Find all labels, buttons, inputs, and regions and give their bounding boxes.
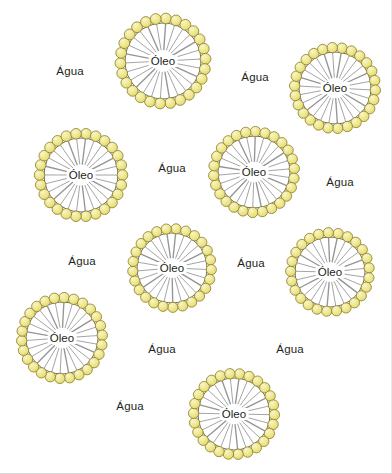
- surfactant-head: [289, 173, 299, 183]
- surfactant-head: [362, 253, 372, 263]
- surfactant-head: [318, 44, 328, 54]
- surfactant-head: [250, 126, 260, 136]
- surfactant-tail: [166, 25, 174, 50]
- surfactant-tail: [257, 138, 264, 162]
- surfactant-head: [290, 90, 300, 100]
- surfactant-head: [364, 263, 374, 273]
- surfactant-tail: [329, 99, 333, 123]
- water-label: Água: [237, 257, 264, 269]
- surfactant-head: [155, 98, 166, 109]
- surfactant-tail: [159, 236, 168, 258]
- surfactant-head: [55, 373, 65, 383]
- water-label: Água: [241, 71, 268, 83]
- surfactant-head: [290, 285, 300, 295]
- surfactant-head: [18, 345, 28, 355]
- surfactant-head: [35, 180, 46, 191]
- surfactant-head: [17, 326, 27, 336]
- surfactant-head: [269, 410, 279, 420]
- surfactant-head: [130, 276, 140, 286]
- surfactant-head: [215, 371, 225, 381]
- surfactant-head: [40, 296, 50, 306]
- surfactant-head: [327, 42, 337, 52]
- surfactant-tail: [238, 381, 247, 404]
- surfactant-tail: [327, 282, 329, 306]
- oil-label: Óleo: [240, 166, 269, 178]
- micelle-diagram: ÓleoÓleoÓleoÓleoÓleoÓleoÓleoÓleoÁguaÁgua…: [0, 0, 392, 474]
- surfactant-tail: [339, 56, 349, 79]
- surfactant-head: [128, 256, 138, 266]
- surfactant-head: [206, 265, 216, 275]
- surfactant-head: [187, 297, 197, 307]
- surfactant-tail: [172, 279, 173, 303]
- surfactant-head: [286, 266, 296, 276]
- surfactant-tail: [336, 99, 338, 124]
- surfactant-head: [370, 75, 380, 85]
- surfactant-tail: [173, 234, 176, 258]
- surfactant-head: [199, 64, 210, 75]
- surfactant-tail: [85, 141, 94, 165]
- surfactant-tail: [229, 425, 232, 449]
- surfactant-tail: [77, 139, 80, 164]
- surfactant-head: [116, 48, 127, 59]
- surfactant-head: [140, 17, 151, 28]
- surfactant-head: [337, 43, 347, 53]
- oil-label: Óleo: [321, 82, 350, 94]
- surfactant-head: [209, 170, 219, 180]
- surfactant-tail: [82, 139, 85, 164]
- surfactant-head: [95, 320, 105, 330]
- surfactant-head: [287, 256, 297, 266]
- surfactant-head: [205, 255, 215, 265]
- surfactant-head: [64, 373, 74, 383]
- surfactant-tail: [235, 425, 238, 450]
- surfactant-head: [333, 123, 343, 133]
- surfactant-head: [209, 161, 219, 171]
- surfactant-tail: [244, 182, 251, 206]
- surfactant-tail: [321, 98, 331, 121]
- surfactant-head: [168, 302, 178, 312]
- surfactant-tail: [165, 72, 169, 98]
- surfactant-head: [231, 130, 241, 140]
- surfactant-tail: [346, 89, 371, 90]
- water-label: Água: [68, 255, 95, 267]
- surfactant-head: [293, 100, 303, 110]
- micelle-group: [16, 13, 380, 459]
- oil-label: Óleo: [158, 262, 187, 274]
- surfactant-head: [117, 170, 128, 181]
- surfactant-head: [74, 370, 84, 380]
- surfactant-head: [333, 228, 343, 238]
- surfactant-head: [200, 53, 211, 64]
- water-label: Água: [116, 400, 143, 412]
- surfactant-head: [198, 43, 209, 54]
- surfactant-head: [81, 211, 92, 222]
- surfactant-head: [322, 306, 332, 316]
- surfactant-tail: [238, 424, 246, 447]
- surfactant-tail: [64, 349, 69, 373]
- surfactant-head: [268, 400, 278, 410]
- surfactant-tail: [65, 304, 72, 328]
- surfactant-head: [71, 211, 82, 222]
- surfactant-tail: [85, 185, 94, 209]
- surfactant-tail: [254, 137, 255, 162]
- oil-label: Óleo: [316, 266, 345, 278]
- surfactant-head: [289, 81, 299, 91]
- surfactant-head: [128, 266, 138, 276]
- surfactant-tail: [312, 242, 324, 263]
- surfactant-head: [241, 127, 251, 137]
- water-label: Água: [326, 176, 353, 188]
- surfactant-head: [287, 276, 297, 286]
- surfactant-tail: [222, 381, 230, 404]
- surfactant-head: [115, 58, 126, 69]
- surfactant-head: [165, 98, 176, 109]
- surfactant-head: [211, 180, 221, 190]
- surfactant-head: [177, 301, 187, 311]
- surfactant-tail: [148, 27, 158, 51]
- surfactant-head: [97, 340, 107, 350]
- surfactant-head: [370, 85, 380, 95]
- surfactant-tail: [52, 348, 59, 372]
- surfactant-head: [90, 209, 101, 220]
- surfactant-tail: [334, 282, 344, 304]
- surfactant-tail: [221, 424, 230, 447]
- surfactant-head: [223, 449, 233, 459]
- surfactant-tail: [47, 306, 57, 328]
- surfactant-tail: [253, 183, 254, 208]
